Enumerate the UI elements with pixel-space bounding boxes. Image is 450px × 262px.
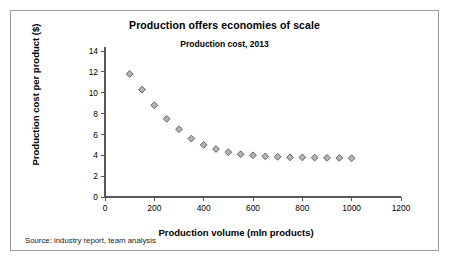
- scatter-plot-svg: 02468101214020040060080010001200: [11, 11, 440, 252]
- x-tick-label: 800: [295, 203, 309, 213]
- y-tick-label: 8: [93, 109, 98, 119]
- y-tick-label: 12: [89, 67, 99, 77]
- data-point-marker: [188, 135, 195, 142]
- data-point-marker: [225, 149, 232, 156]
- data-point-marker: [237, 151, 244, 158]
- data-point-marker: [299, 154, 306, 161]
- data-point-marker: [274, 153, 281, 160]
- y-tick-label: 10: [89, 88, 99, 98]
- y-tick-label: 6: [93, 130, 98, 140]
- tick-label-layer: 02468101214020040060080010001200: [89, 46, 411, 213]
- y-tick-label: 4: [93, 150, 98, 160]
- data-point-marker: [287, 154, 294, 161]
- data-point-marker: [126, 71, 133, 78]
- x-tick-label: 400: [197, 203, 211, 213]
- tick-layer: [101, 51, 401, 201]
- data-point-marker: [151, 102, 158, 109]
- axis-layer: [105, 47, 401, 197]
- data-point-marker: [324, 154, 331, 161]
- data-point-marker: [139, 86, 146, 93]
- data-point-marker: [311, 154, 318, 161]
- y-tick-label: 0: [93, 192, 98, 202]
- source-note: Source: industry report, team analysis: [25, 236, 156, 245]
- x-tick-label: 1200: [392, 203, 411, 213]
- y-tick-label: 2: [93, 171, 98, 181]
- data-point-marker: [348, 155, 355, 162]
- x-tick-label: 600: [246, 203, 260, 213]
- data-point-marker: [163, 115, 170, 122]
- plot-area: 02468101214020040060080010001200: [11, 11, 440, 252]
- y-axis-title: Production cost per product ($): [30, 15, 41, 175]
- x-tick-label: 1000: [342, 203, 361, 213]
- data-point-marker: [200, 141, 207, 148]
- x-tick-label: 200: [147, 203, 161, 213]
- figure-frame: Production offers economies of scale Pro…: [10, 10, 439, 251]
- data-point-marker: [250, 152, 257, 159]
- y-tick-label: 14: [89, 46, 99, 56]
- data-point-marker: [262, 153, 269, 160]
- data-marker-layer: [126, 71, 355, 162]
- data-point-marker: [213, 146, 220, 153]
- data-point-marker: [336, 154, 343, 161]
- x-tick-label: 0: [103, 203, 108, 213]
- data-point-marker: [176, 126, 183, 133]
